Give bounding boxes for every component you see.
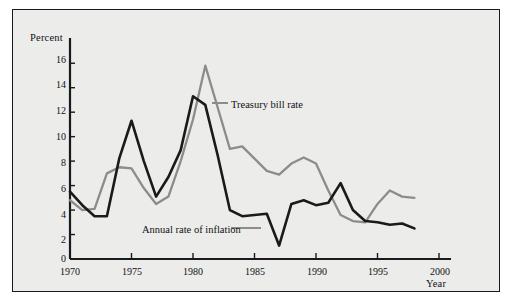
chart-series-lines (70, 66, 414, 246)
chart-plot-area (13, 10, 501, 293)
chart-axes (70, 38, 451, 259)
chart-figure: Percent Year 16 14 12 10 8 6 4 2 0 1970 … (12, 9, 500, 292)
series-line-treasury-bill-rate (70, 66, 414, 223)
